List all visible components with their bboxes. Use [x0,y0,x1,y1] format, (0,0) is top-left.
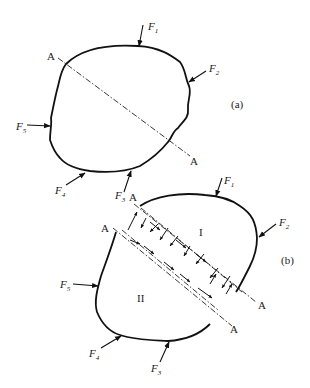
section-label-b-upper-start: A [129,191,137,203]
section-line-b-inner1 [141,208,242,292]
force-label-f5-a: F5 [15,120,27,135]
region-label-I: I [199,226,203,238]
force-label-f5-b: F5 [59,278,71,293]
force-label-f4-b: F4 [88,347,100,362]
force-label-f4-a: F4 [54,184,66,199]
section-label-b-upper-end: A [258,299,266,311]
force-arrow-f3-a [124,171,131,192]
force-arrow-f4-b [101,336,121,348]
internal-stress-arrows [128,212,232,298]
force-label-f2-a: F2 [208,62,220,77]
force-arrow-f3-b [160,342,169,362]
region-label-II: II [137,292,145,304]
force-arrow-f5-b [73,284,98,286]
section-line-a [58,58,190,156]
section-label-a-end: A [190,155,198,167]
body-outline-b-part-II [96,232,210,341]
force-arrow-f5-a [27,125,50,126]
force-arrow-f1-b [216,178,222,196]
section-label-b-lower-end: A [230,323,238,335]
force-label-f3-b: F3 [150,362,162,377]
section-label-a-start: A [47,50,55,62]
body-outline-b-part-I [140,194,257,292]
force-arrow-f1-a [139,25,143,46]
force-arrow-f2-a [189,71,206,82]
body-outline-a [50,46,190,172]
force-arrow-f2-b [259,224,276,237]
section-label-b-lower-start: A [101,222,109,234]
panel-b: A A A A I II F1 [59,174,294,377]
panel-label-b: (b) [281,254,294,267]
free-body-diagram: A A F1 F2 F5 F4 F3 (a) A A A A [0,0,310,388]
force-label-f1-b: F1 [223,174,234,189]
force-arrow-f4-a [66,173,85,185]
panel-label-a: (a) [231,98,244,111]
force-label-f1-a: F1 [147,20,158,35]
force-label-f2-b: F2 [278,216,290,231]
panel-a: A A F1 F2 F5 F4 F3 (a) [15,20,244,204]
